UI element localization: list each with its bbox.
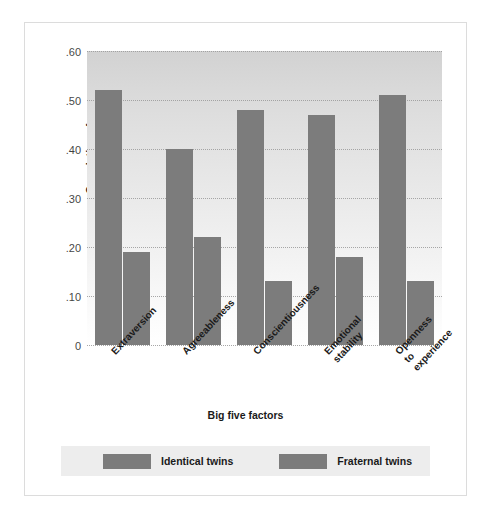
y-tick-label: .20 — [66, 242, 81, 254]
bar-group — [166, 51, 221, 345]
legend-entry: Fraternal twins — [279, 454, 412, 469]
chart-figure-frame: Correlation of scores 0.10.20.30.40.50.6… — [24, 22, 467, 496]
legend-label: Identical twins — [161, 455, 233, 467]
y-tick-label: .10 — [66, 291, 81, 303]
y-tick-label: .40 — [66, 144, 81, 156]
y-tick-label: .60 — [66, 46, 81, 58]
y-tick-label: .50 — [66, 95, 81, 107]
chart-legend: Identical twinsFraternal twins — [61, 446, 430, 476]
bar-identical-twins — [308, 115, 335, 345]
legend-entry: Identical twins — [103, 454, 233, 469]
y-tick-label: 0 — [75, 340, 81, 352]
bar-group — [308, 51, 363, 345]
bar-identical-twins — [95, 90, 122, 345]
legend-swatch-icon — [103, 454, 151, 469]
y-tick-label: .30 — [66, 193, 81, 205]
legend-swatch-icon — [279, 454, 327, 469]
bar-identical-twins — [237, 110, 264, 345]
bar-group — [237, 51, 292, 345]
bar-group — [95, 51, 150, 345]
bar-identical-twins — [166, 149, 193, 345]
x-axis-title: Big five factors — [25, 409, 466, 421]
legend-label: Fraternal twins — [337, 455, 412, 467]
